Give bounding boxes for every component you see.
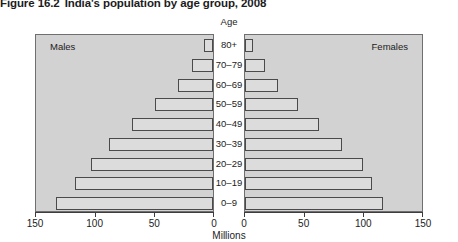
females-bar-40-49: [245, 118, 319, 131]
bar-row: [245, 95, 422, 115]
females-bar-30-39: [245, 138, 342, 151]
males-tick-label-100: 100: [75, 218, 115, 229]
males-tick-label-50: 50: [134, 218, 174, 229]
males-axis-line: [35, 212, 214, 213]
bar-row: [245, 36, 422, 56]
bar-row: [36, 95, 213, 115]
females-bar-70-79: [245, 59, 265, 72]
bar-row: [36, 174, 213, 194]
age-label-60-69: 60–69: [211, 75, 247, 95]
females-tick: [304, 212, 305, 217]
males-tick: [95, 212, 96, 217]
females-bar-60-69: [245, 79, 278, 92]
bar-row: [245, 56, 422, 76]
males-tick: [213, 212, 214, 217]
males-bar-50-59: [155, 98, 213, 111]
age-category-column: Age 80+70–7960–6950–5940–4930–3920–2910–…: [214, 16, 244, 212]
bar-row: [36, 36, 213, 56]
females-tick-label-150: 150: [403, 218, 443, 229]
males-bar-10-19: [75, 177, 213, 190]
males-bar-30-39: [109, 138, 213, 151]
bar-row: [245, 76, 422, 96]
age-label-20-29: 20–29: [211, 154, 247, 174]
males-tick-label-150: 150: [15, 218, 55, 229]
age-label-10-19: 10–19: [211, 173, 247, 193]
males-bar-40-49: [132, 118, 213, 131]
bar-row: [245, 174, 422, 194]
males-tick: [154, 212, 155, 217]
males-bar-70-79: [192, 59, 213, 72]
females-tick: [422, 212, 423, 217]
females-plot-panel: Females: [244, 34, 423, 212]
bar-row: [36, 155, 213, 175]
males-bar-0-9: [56, 197, 213, 210]
age-label-40-49: 40–49: [211, 114, 247, 134]
females-tick-label-0: 0: [224, 218, 264, 229]
population-pyramid-chart: Males Females Age 80+70–7960–6950–5940–4…: [0, 12, 458, 242]
males-tick: [35, 212, 36, 217]
bar-row: [36, 115, 213, 135]
females-x-axis: 050100150: [244, 212, 423, 218]
males-plot-panel: Males: [35, 34, 214, 212]
males-x-axis: 150100500: [35, 212, 214, 218]
age-label-80+: 80+: [211, 35, 247, 55]
age-label-0-9: 0–9: [211, 193, 247, 213]
females-bar-50-59: [245, 98, 298, 111]
age-label-70-79: 70–79: [211, 55, 247, 75]
bar-row: [245, 155, 422, 175]
females-tick-label-50: 50: [284, 218, 324, 229]
females-bar-20-29: [245, 158, 363, 171]
age-label-30-39: 30–39: [211, 134, 247, 154]
males-bar-60-69: [178, 79, 213, 92]
females-bar-10-19: [245, 177, 372, 190]
x-axis-caption: Millions: [0, 230, 458, 241]
males-bar-20-29: [91, 158, 213, 171]
age-label-50-59: 50–59: [211, 94, 247, 114]
bar-row: [36, 76, 213, 96]
bar-row: [36, 56, 213, 76]
bar-row: [245, 115, 422, 135]
figure-title-text: India's population by age group, 2008: [65, 0, 267, 9]
females-bar-0-9: [245, 197, 383, 210]
females-tick-label-100: 100: [343, 218, 383, 229]
figure-title: Figure 16.2India's population by age gro…: [0, 0, 458, 12]
females-tick: [244, 212, 245, 217]
females-tick: [363, 212, 364, 217]
bar-row: [245, 135, 422, 155]
figure-number: Figure 16.2: [0, 0, 60, 9]
bar-row: [36, 135, 213, 155]
females-axis-line: [244, 212, 423, 213]
age-axis-heading: Age: [214, 16, 244, 27]
